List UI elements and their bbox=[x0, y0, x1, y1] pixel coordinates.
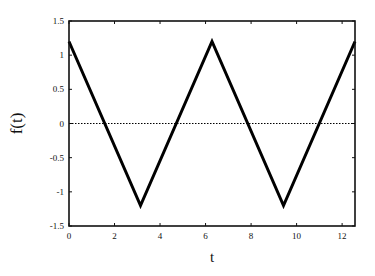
y-tick-label: 0.5 bbox=[53, 84, 65, 94]
series bbox=[69, 42, 355, 206]
x-tick-label: 6 bbox=[203, 231, 208, 241]
y-tick-label: -1 bbox=[57, 187, 65, 197]
y-tick-label: -0.5 bbox=[50, 153, 65, 163]
x-tick-label: 4 bbox=[158, 231, 163, 241]
chart: 0246810121.510.50-0.5-1-1.5 t f(t) bbox=[0, 0, 375, 276]
y-tick-label: 0 bbox=[60, 119, 65, 129]
y-axis-label: f(t) bbox=[7, 113, 26, 135]
y-tick-label: -1.5 bbox=[50, 221, 65, 231]
y-tick-label: 1.5 bbox=[53, 16, 65, 26]
x-tick-label: 0 bbox=[67, 231, 72, 241]
x-tick-label: 8 bbox=[249, 231, 254, 241]
tick-labels: 0246810121.510.50-0.5-1-1.5 bbox=[50, 16, 347, 241]
y-tick-label: 1 bbox=[60, 50, 65, 60]
x-tick-label: 2 bbox=[112, 231, 117, 241]
x-tick-label: 12 bbox=[338, 231, 347, 241]
x-axis-label: t bbox=[210, 249, 215, 265]
x-tick-label: 10 bbox=[292, 231, 302, 241]
